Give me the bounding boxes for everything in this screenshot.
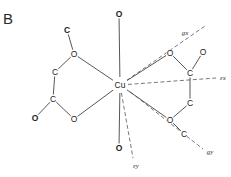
metal-center: Cu bbox=[113, 80, 127, 90]
oxygen-atom-o-left-upper: O bbox=[71, 49, 78, 59]
carbon-atom-c-right-upper: C bbox=[187, 68, 193, 78]
oxygen-atom-o-left-lower: O bbox=[71, 114, 78, 124]
oxygen-atom-o-right-upper: O bbox=[167, 48, 174, 58]
axis-labels: gxεxεygy bbox=[131, 29, 228, 170]
bond-o_right_lower-c_right_tail bbox=[173, 123, 181, 131]
axis-label-gx: gx bbox=[182, 29, 190, 37]
oxygen-atom-o-right-lower: O bbox=[167, 115, 174, 125]
bond-metal-o_left_upper bbox=[78, 57, 114, 81]
bond-c_left_top-o_left_upper bbox=[68, 34, 72, 49]
axis-ex bbox=[128, 78, 216, 84]
bond-c_left_mid-c_left_low bbox=[53, 76, 54, 94]
carbon-atom-c-right-lower: C bbox=[187, 98, 193, 108]
panel-label: B bbox=[3, 10, 13, 27]
bond-metal-o_axial_top bbox=[119, 18, 120, 77]
axis-label-ey: εy bbox=[133, 162, 140, 170]
axes bbox=[121, 26, 216, 158]
axis-label-ex: εx bbox=[220, 74, 227, 82]
oxygen-atom-o-left-outer: O bbox=[32, 113, 39, 123]
axis-label-gy: gy bbox=[207, 148, 215, 156]
bond-metal-o_right_upper bbox=[127, 55, 166, 80]
axis-ey bbox=[121, 93, 133, 158]
bond-o_right_upper-c_right_upper bbox=[173, 56, 187, 70]
bond-metal-o_left_lower bbox=[78, 90, 114, 117]
copper-atom: Cu bbox=[115, 80, 126, 90]
bond-c_right_lower-o_right_lower bbox=[173, 106, 186, 117]
oxygen-atom-o-axial-top: O bbox=[116, 9, 123, 19]
carbon-atom-c-left-top: C bbox=[64, 25, 70, 35]
copper-complex-diagram: B OOCOCCOOOOCCOC Cu gxεxεygy bbox=[0, 0, 231, 177]
carbon-atom-c-right-tail: C bbox=[181, 129, 187, 139]
oxygen-atom-o-right-carbonyl: O bbox=[200, 47, 207, 57]
bond-c_left_low-o_left_lower bbox=[56, 102, 70, 116]
carbon-atom-c-left-low: C bbox=[50, 94, 56, 104]
bond-o_left_upper-c_left_mid bbox=[58, 57, 70, 69]
bond-o_right_carbonyl-c_right_upper bbox=[192, 56, 200, 69]
carbon-atom-c-left-mid: C bbox=[52, 67, 58, 77]
oxygen-atom-o-axial-bottom: O bbox=[116, 143, 123, 153]
bond-metal-o_axial_bottom bbox=[119, 93, 120, 144]
bond-c_left_low-o_left_outer bbox=[38, 102, 50, 114]
